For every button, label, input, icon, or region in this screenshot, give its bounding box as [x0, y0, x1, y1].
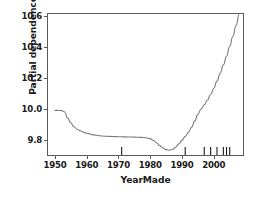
x-tick-mark: [150, 156, 151, 159]
y-tick-label: 10.2: [0, 73, 42, 83]
y-tick-label: 10.0: [0, 104, 42, 114]
x-tick-mark: [87, 156, 88, 159]
x-tick-mark: [118, 156, 119, 159]
y-tick-label: 9.8: [0, 135, 42, 145]
x-tick-label: 2000: [194, 160, 234, 170]
y-tick-label: 10.4: [0, 42, 42, 52]
y-tick-label: 10.6: [0, 11, 42, 21]
x-axis-title: YearMade: [47, 174, 244, 185]
x-tick-mark: [182, 156, 183, 159]
x-tick-mark: [214, 156, 215, 159]
rug-marks: [47, 13, 244, 156]
partial-dependence-figure: Partial dependence YearMade 9.810.010.21…: [0, 0, 256, 197]
x-tick-mark: [55, 156, 56, 159]
